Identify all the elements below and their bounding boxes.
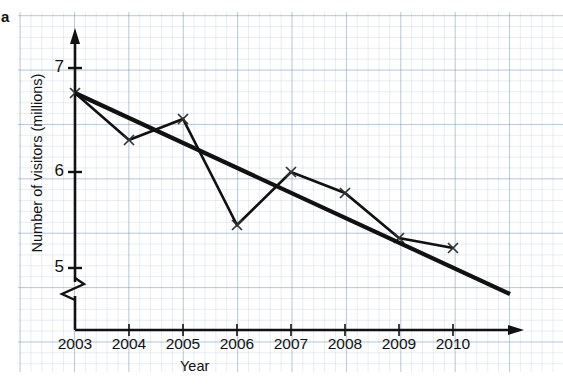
x-tick-label-2006: 2006: [209, 335, 265, 353]
data-series-line: [75, 93, 453, 248]
x-axis-title: Year: [180, 358, 209, 374]
line-chart-plot: [0, 0, 563, 388]
x-tick-label-2007: 2007: [263, 335, 319, 353]
y-axis-title: Number of visitors (millions): [29, 48, 45, 278]
chart-figure: a: [0, 0, 563, 388]
x-tick-label-2003: 2003: [47, 335, 103, 353]
y-axis: [62, 28, 84, 330]
x-tick-label-2010: 2010: [425, 335, 481, 353]
x-tick-label-2005: 2005: [155, 335, 211, 353]
trend-line: [75, 93, 510, 294]
x-tick-label-2004: 2004: [101, 335, 157, 353]
data-point-markers: [70, 88, 458, 253]
y-axis-break-icon: [62, 278, 84, 300]
x-tick-label-2008: 2008: [317, 335, 373, 353]
x-tick-label-2009: 2009: [371, 335, 427, 353]
